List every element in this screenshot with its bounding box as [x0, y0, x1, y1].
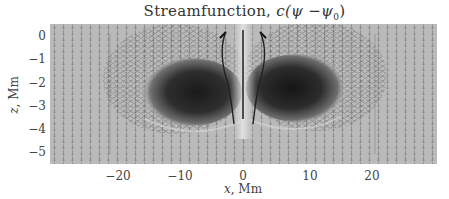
x-tick-0: −20: [98, 169, 138, 183]
x-tick-1: −10: [160, 169, 200, 183]
chart-title: Streamfunction, c(ψ −ψ0): [0, 2, 449, 22]
x-axis-label: x, Mm: [223, 182, 263, 196]
y-axis-label: z, Mm: [7, 75, 21, 115]
y-axis-unit: , Mm: [7, 76, 21, 107]
y-tick-2: −2: [28, 77, 46, 89]
title-text: Streamfunction,: [144, 2, 277, 20]
streamfunction-heatmap: [50, 24, 437, 164]
y-axis-var: z: [7, 107, 21, 113]
title-close-paren: ): [339, 2, 345, 20]
y-tick-3: −3: [28, 100, 46, 112]
x-tick-3: 10: [290, 169, 330, 183]
title-expression: c(ψ −ψ: [276, 2, 333, 20]
x-tick-2: 0: [223, 169, 263, 183]
y-tick-4: −4: [28, 123, 46, 135]
y-tick-1: −1: [28, 53, 46, 65]
x-tick-4: 20: [352, 169, 392, 183]
y-tick-0: 0: [28, 30, 46, 42]
x-axis-var: x: [224, 182, 231, 196]
x-axis-unit: , Mm: [231, 182, 262, 196]
plot-area: [50, 24, 437, 164]
y-tick-5: −5: [28, 146, 46, 158]
